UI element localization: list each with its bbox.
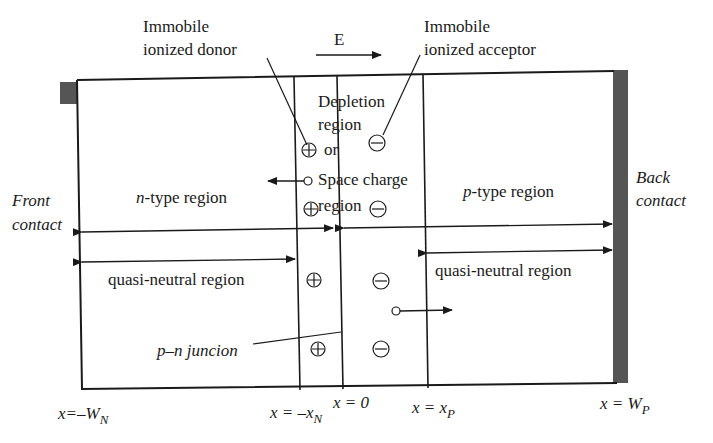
donor-leader — [267, 58, 307, 145]
axis-wp: x = WP — [600, 394, 650, 415]
front-contact-label-1: Front — [12, 191, 50, 211]
boundary-xp — [423, 74, 428, 388]
front-contact-label-2: contact — [12, 215, 62, 235]
hole-drift-arrow — [400, 310, 452, 311]
qn-right-label: quasi-neutral region — [435, 261, 571, 281]
junction-label: p–n juncion — [157, 341, 238, 361]
depletion-label-4: Space charge — [318, 170, 408, 190]
back-contact-label-1: Back — [636, 168, 670, 188]
axis-zero: x = 0 — [333, 393, 369, 413]
n-type-label: n-type region — [136, 188, 227, 208]
axis-minus-xn: x = –xN — [270, 403, 322, 424]
front-contact-pad — [60, 82, 77, 104]
electron-carrier — [304, 177, 312, 185]
acceptor-ions — [369, 135, 389, 357]
depletion-label-3: or — [324, 140, 338, 160]
axis-minus-wn: x=–WN — [58, 404, 108, 425]
donor-label-2: ionized donor — [143, 40, 237, 60]
acceptor-leader — [383, 55, 420, 135]
back-contact-bar — [613, 70, 628, 383]
qn-left-label: quasi-neutral region — [108, 270, 244, 290]
axis-xp: x = xP — [412, 398, 455, 419]
depletion-label-5: region — [318, 196, 361, 216]
acceptor-label-2: ionized acceptor — [424, 40, 536, 60]
donor-label-1: Immobile — [143, 17, 209, 37]
qn-left-span — [82, 259, 295, 262]
p-type-label: p-type region — [463, 182, 554, 202]
depletion-label-1: Depletion — [318, 92, 385, 112]
field-label: E — [334, 30, 344, 50]
qn-right-span — [427, 250, 612, 253]
p-region-span — [344, 224, 612, 228]
junction-leader — [253, 332, 341, 344]
pn-junction-diagram — [0, 0, 713, 443]
hole-carrier — [392, 307, 400, 315]
depletion-label-2: region — [318, 115, 361, 135]
back-contact-label-2: contact — [636, 191, 686, 211]
acceptor-label-1: Immobile — [424, 17, 490, 37]
n-region-span — [82, 228, 333, 232]
